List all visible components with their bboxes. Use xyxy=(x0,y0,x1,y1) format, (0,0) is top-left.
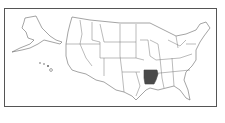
state-alaska xyxy=(12,16,62,52)
us-map xyxy=(0,0,225,123)
state-hawaii xyxy=(39,62,52,71)
